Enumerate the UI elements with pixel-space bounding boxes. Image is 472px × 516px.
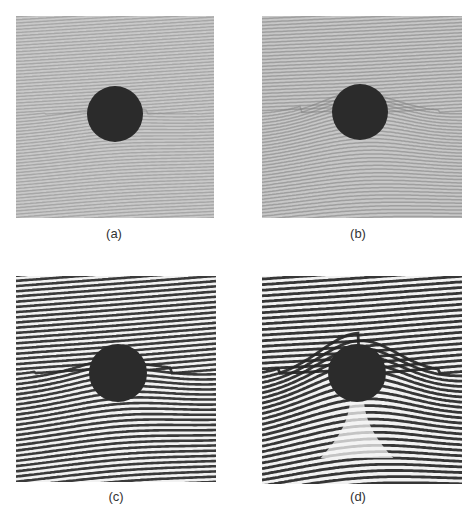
interferogram-image: [16, 276, 216, 482]
interferogram-image: [16, 16, 214, 218]
interferogram-image: [262, 16, 462, 218]
panel-caption-c: (c): [96, 489, 136, 504]
droplet-disk: [328, 344, 386, 402]
panel-b: [262, 16, 462, 218]
droplet-disk: [332, 84, 388, 140]
panel-a: [16, 16, 214, 218]
panel-caption-d: (d): [338, 489, 378, 504]
panel-caption-a: (a): [94, 226, 134, 241]
droplet-disk: [87, 86, 143, 142]
panel-d: [262, 276, 462, 484]
interferogram-image: [262, 276, 462, 484]
panel-c: [16, 276, 216, 482]
droplet-disk: [89, 344, 147, 402]
panel-caption-b: (b): [338, 226, 378, 241]
